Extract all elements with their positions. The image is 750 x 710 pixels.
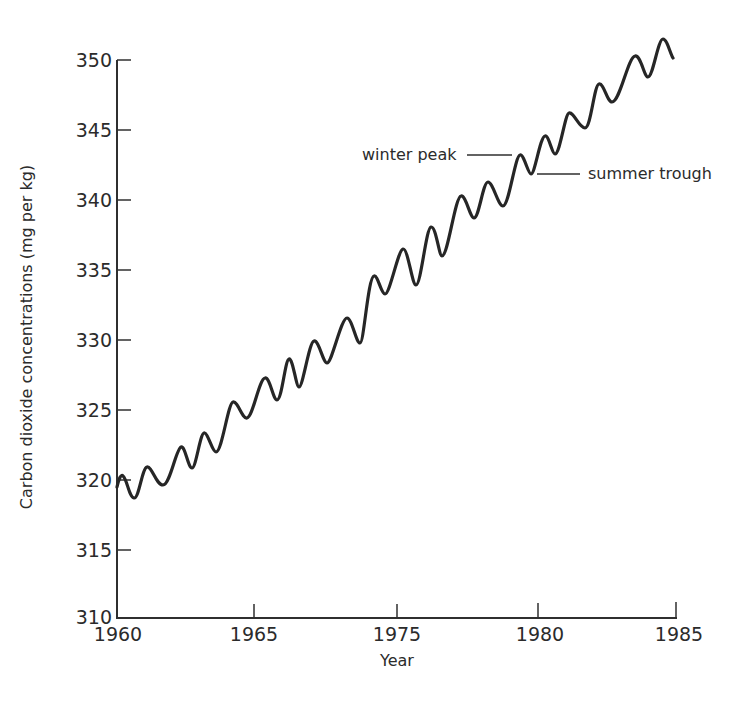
x-tick-label: 1980 [516,623,564,645]
co2-line-chart: Carbon dioxide concentrations (mg per kg… [0,0,750,710]
x-ticks [254,602,676,618]
y-axis-title: Carbon dioxide concentrations (mg per kg… [17,165,36,509]
summer-trough-label: summer trough [588,164,712,183]
annotation-winter-peak: winter peak [362,145,512,164]
co2-series-line [117,39,673,498]
y-tick-label: 335 [76,259,112,281]
annotation-summer-trough: summer trough [537,164,712,183]
y-tick-label: 315 [76,539,112,561]
y-tick-labels: 350 345 340 335 330 325 320 315 310 [76,49,112,628]
axes [116,60,677,618]
y-tick-label: 330 [76,329,112,351]
y-tick-label: 320 [76,469,112,491]
x-tick-label: 1960 [94,623,142,645]
winter-peak-label: winter peak [362,145,457,164]
y-tick-label: 350 [76,49,112,71]
y-tick-label: 345 [76,119,112,141]
x-tick-label: 1965 [230,623,278,645]
y-tick-label: 340 [76,189,112,211]
x-axis-title: Year [379,651,414,670]
y-tick-label: 325 [76,399,112,421]
x-tick-label: 1975 [373,623,421,645]
x-tick-label: 1985 [655,623,703,645]
x-tick-labels: 1960 1965 1975 1980 1985 [94,623,703,645]
